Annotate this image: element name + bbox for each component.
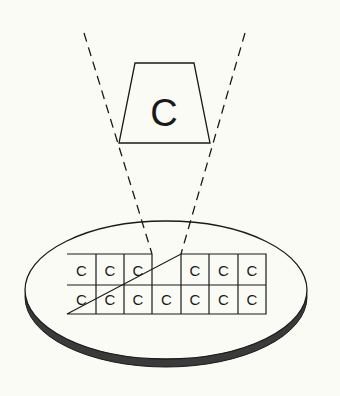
die-r2c4: C xyxy=(161,291,172,308)
die-r1c3: C xyxy=(133,262,144,279)
picked-die-label: C xyxy=(150,92,177,134)
die-r2c1: C xyxy=(76,291,87,308)
die-r2c7: C xyxy=(247,291,258,308)
diagram-svg: C C C C C C C C C C C C C C xyxy=(0,0,340,396)
diagram-canvas: C C C C C C C C C C C C C C xyxy=(0,0,340,396)
die-r2c3: C xyxy=(133,291,144,308)
die-r1c6: C xyxy=(218,262,229,279)
die-r2c2: C xyxy=(105,291,116,308)
die-r2c6: C xyxy=(218,291,229,308)
die-r1c7: C xyxy=(247,262,258,279)
die-r2c5: C xyxy=(190,291,201,308)
die-r1c5: C xyxy=(190,262,201,279)
die-r1c1: C xyxy=(76,262,87,279)
die-r1c2: C xyxy=(105,262,116,279)
plate-face xyxy=(25,221,307,359)
